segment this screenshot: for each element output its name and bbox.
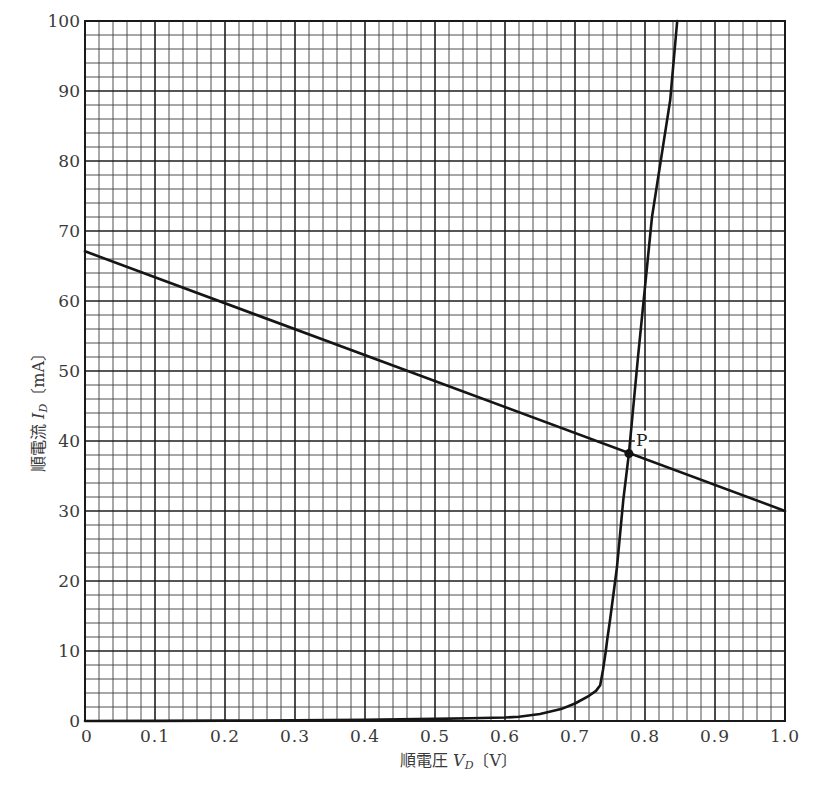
x-tick-label: 0.8 (630, 726, 660, 746)
y-tick-label: 20 (58, 571, 80, 591)
x-axis-ticks: 00.10.20.30.40.50.60.70.80.91.0 (81, 726, 800, 746)
x-tick-label: 0.1 (140, 726, 170, 746)
y-axis-label: 順電流 ID〔mA〕 (29, 345, 50, 472)
y-tick-label: 70 (58, 221, 80, 241)
x-axis-label: 順電圧 VD〔V〕 (400, 751, 517, 772)
x-tick-label: 0.7 (560, 726, 590, 746)
x-tick-label: 0.2 (210, 726, 240, 746)
y-tick-label: 80 (58, 151, 80, 171)
x-tick-label: 0 (81, 726, 93, 746)
y-tick-label: 30 (58, 501, 80, 521)
y-tick-label: 90 (58, 81, 80, 101)
x-tick-label: 0.6 (490, 726, 520, 746)
x-tick-label: 0.3 (280, 726, 310, 746)
y-tick-label: 0 (69, 711, 80, 731)
grid-major (85, 21, 785, 721)
x-tick-label: 0.5 (420, 726, 450, 746)
y-tick-label: 100 (48, 11, 80, 31)
operating-point-marker (624, 449, 633, 458)
y-axis-ticks: 0102030405060708090100 (48, 11, 80, 731)
x-tick-label: 0.4 (350, 726, 380, 746)
chart: 0102030405060708090100 00.10.20.30.40.50… (0, 0, 819, 791)
x-tick-label: 1.0 (770, 726, 800, 746)
x-tick-label: 0.9 (700, 726, 730, 746)
y-tick-label: 50 (58, 361, 80, 381)
operating-point-label: P (636, 430, 647, 450)
y-tick-label: 40 (58, 431, 80, 451)
y-tick-label: 10 (58, 641, 80, 661)
y-tick-label: 60 (58, 291, 80, 311)
